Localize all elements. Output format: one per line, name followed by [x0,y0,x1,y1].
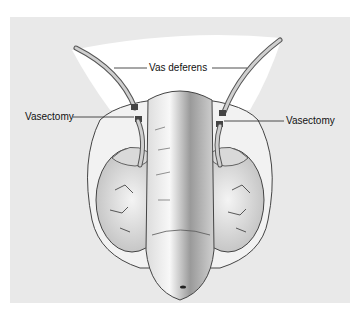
penis [146,91,214,300]
label-vas-deferens: Vas deferens [149,62,207,74]
label-vasectomy-right: Vasectomy [286,115,335,127]
anatomy-illustration [0,0,363,314]
label-vasectomy-left: Vasectomy [25,111,74,123]
